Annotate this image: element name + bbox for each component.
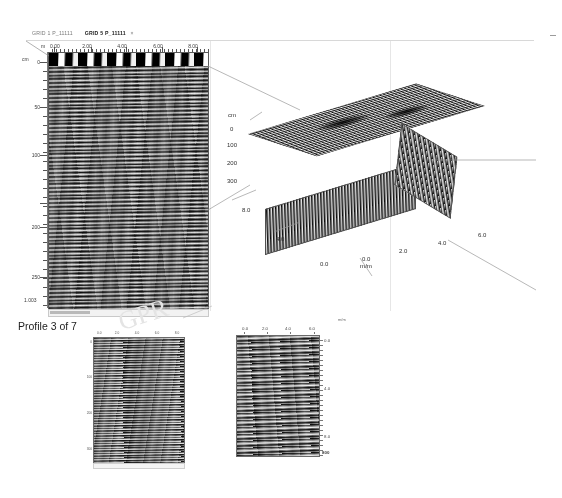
radar-grain [49, 53, 208, 309]
main-x-axis: 0.00 2.00 4.00 6.00 8.00 [48, 43, 207, 52]
tab-grid-5-label: GRID 5 P_11111 [85, 30, 126, 36]
y-minor-tick [43, 242, 47, 243]
y-minor-tick [43, 251, 47, 252]
y-minor-tick [320, 455, 323, 456]
x-tick-label: 0.0 [242, 326, 248, 331]
radar-surface-reflection [49, 53, 208, 66]
block-depth-unit: cm [228, 112, 236, 118]
x-tick [290, 332, 291, 334]
block-depth-tick: 200 [227, 160, 237, 166]
y-minor-tick [320, 435, 323, 436]
block-x-tick: 4.0 [438, 240, 446, 246]
y-tick-label: 300 [87, 447, 92, 451]
profile-c-bottom-value: 800 [322, 450, 329, 455]
y-minor-tick [320, 345, 323, 346]
y-minor-tick [43, 269, 47, 270]
tab-grid-1[interactable]: GRID 1 P_11111 [26, 28, 79, 39]
y-minor-tick [43, 98, 47, 99]
profile-b-scrollbar[interactable] [93, 463, 185, 469]
y-minor-tick [320, 420, 323, 421]
y-minor-tick [320, 365, 323, 366]
x-tick-label: 4.0 [285, 326, 291, 331]
y-minor-tick [43, 197, 47, 198]
x-tick-label: 6.0 [309, 326, 315, 331]
x-tick-label: 0.0 [97, 331, 101, 335]
pane-divider-left[interactable] [210, 41, 211, 311]
y-minor-tick [320, 400, 323, 401]
y-tick-label: 0.0 [324, 338, 330, 343]
close-icon[interactable]: × [131, 30, 134, 36]
y-minor-tick [320, 410, 323, 411]
y-minor-tick [43, 296, 47, 297]
bottom-right-radargram[interactable] [236, 335, 320, 457]
block-depth-tick: 300 [227, 178, 237, 184]
y-tick-label: 100 [87, 375, 92, 379]
y-minor-tick [43, 107, 47, 108]
y-tick [40, 203, 47, 204]
profile-caption: Profile 3 of 7 [18, 320, 77, 332]
y-minor-tick [320, 340, 323, 341]
x-tick-label: 4.0 [135, 331, 139, 335]
y-tick-label: 200 [87, 411, 92, 415]
y-minor-tick [320, 425, 323, 426]
x-tick-label: 2.0 [262, 326, 268, 331]
y-minor-tick [320, 360, 323, 361]
y-minor-tick [43, 152, 47, 153]
y-tick-label: 100 [32, 152, 40, 158]
y-minor-tick [43, 233, 47, 234]
y-minor-tick [320, 350, 323, 351]
y-minor-tick [320, 390, 323, 391]
y-minor-tick [320, 405, 323, 406]
block-axis-label: m/m [360, 262, 372, 269]
y-minor-tick [43, 224, 47, 225]
y-tick [40, 227, 47, 228]
y-minor-tick [43, 188, 47, 189]
profile-c-x-axis: 0.0 2.0 4.0 6.0 [236, 326, 326, 334]
y-minor-tick [43, 89, 47, 90]
y-minor-tick [320, 380, 323, 381]
y-minor-tick [43, 278, 47, 279]
x-tick [244, 332, 245, 334]
y-minor-tick [320, 370, 323, 371]
y-minor-tick [320, 430, 323, 431]
block-depth-tick: 0 [230, 126, 233, 132]
radar-grain [237, 336, 319, 456]
y-minor-tick [43, 80, 47, 81]
y-minor-tick [43, 116, 47, 117]
y-minor-tick [43, 179, 47, 180]
y-minor-tick [320, 385, 323, 386]
tab-grid-1-label: GRID 1 P_11111 [32, 30, 73, 36]
minimize-icon[interactable] [549, 31, 556, 36]
radar-grain [94, 338, 184, 463]
main-radargram[interactable] [48, 52, 209, 310]
y-minor-tick [320, 395, 323, 396]
bottom-middle-radargram[interactable] [93, 337, 185, 464]
x-tick-label: 2.0 [115, 331, 119, 335]
tab-grid-5[interactable]: GRID 5 P_11111 × [79, 28, 140, 39]
y-minor-tick [43, 170, 47, 171]
y-tick-label: 0 [90, 340, 92, 344]
scrollbar-thumb[interactable] [50, 311, 90, 314]
x-tick [267, 332, 268, 334]
y-minor-tick [43, 62, 47, 63]
app-window: GRID 1 P_11111 GRID 5 P_11111 × 0.00 2.0… [0, 0, 562, 498]
y-tick-label: 200 [32, 224, 40, 230]
main-trace-label: 1.003 [24, 297, 37, 303]
block-x-tick: 6.0 [478, 232, 486, 238]
x-tick-label: 8.0 [175, 331, 179, 335]
profile-b-y-axis: 0 100 200 300 [84, 337, 93, 462]
y-tick [40, 155, 47, 156]
y-tick-label: 4.0 [324, 386, 330, 391]
main-x-unit: m [41, 43, 45, 49]
tab-strip-divider [26, 40, 534, 41]
y-minor-tick [43, 206, 47, 207]
x-tick-label: 6.0 [155, 331, 159, 335]
y-minor-tick [43, 143, 47, 144]
y-minor-tick [320, 355, 323, 356]
main-y-axis: 0 50 100 150 200 250 [22, 52, 48, 308]
y-minor-tick [43, 125, 47, 126]
y-minor-tick [320, 440, 323, 441]
y-tick-label: 8.0 [324, 434, 330, 439]
block-y-tick: 0.0 [320, 261, 328, 267]
y-minor-tick [43, 134, 47, 135]
